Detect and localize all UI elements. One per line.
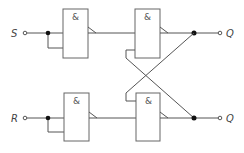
gate-symbol: &	[144, 12, 151, 22]
output-terminal-qbar	[218, 116, 222, 120]
output-label-q: Q	[226, 28, 234, 39]
wire-s-branch	[48, 33, 63, 48]
junction-dot-s	[46, 31, 51, 36]
input-terminal-r	[23, 116, 27, 120]
circuit-diagram: S & & Q R & &	[0, 0, 244, 153]
gate-bottom-left: &	[64, 93, 97, 141]
input-label-s: S	[11, 28, 18, 39]
gate-symbol: &	[145, 96, 152, 106]
wire-r-branch	[48, 118, 64, 132]
junction-dot-qbar	[192, 116, 197, 121]
input-label-r: R	[11, 113, 18, 124]
output-label-qbar: Q	[226, 113, 234, 124]
output-terminal-q	[218, 31, 222, 35]
gate-symbol: &	[73, 96, 80, 106]
gate-symbol: &	[72, 12, 79, 22]
input-terminal-s	[23, 31, 27, 35]
gate-bottom-right: &	[136, 93, 168, 141]
junction-dot-r	[46, 116, 51, 121]
